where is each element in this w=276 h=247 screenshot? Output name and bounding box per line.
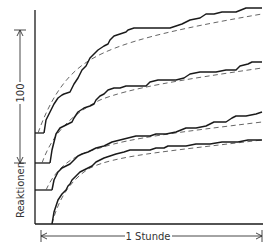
x-scale-label: 1 Stunde <box>126 231 171 242</box>
x-scale-bar: 1 Stunde <box>41 230 262 242</box>
cumulative-record-chart: 100 Reaktionen 1 Stunde <box>0 0 276 247</box>
y-scale-bar: 100 <box>14 30 26 163</box>
curve-4-fit <box>52 140 262 224</box>
y-axis-label: Reaktionen <box>15 162 26 218</box>
curve-1-fit <box>38 14 262 133</box>
curve-3-record <box>52 112 262 190</box>
y-scale-label: 100 <box>15 83 26 102</box>
